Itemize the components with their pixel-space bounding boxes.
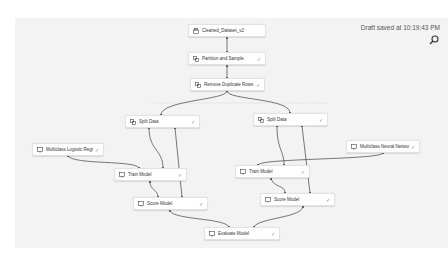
node-remove-duplicate-rows[interactable]: Remove Duplicate Rows ✓: [190, 78, 265, 91]
model-icon: [240, 169, 246, 175]
model-icon: [209, 231, 215, 237]
node-train-model-right[interactable]: Train Model ✓: [235, 165, 310, 178]
node-label: Evaluate Model: [218, 231, 269, 236]
node-label: Split Data: [267, 117, 317, 122]
check-icon: ✓: [199, 201, 203, 207]
check-icon: ✓: [411, 144, 415, 150]
check-icon: ✓: [256, 82, 260, 88]
check-icon: ✓: [319, 117, 323, 123]
node-label: Multiclass Neural Network: [360, 144, 409, 149]
model-icon: [119, 172, 125, 178]
node-partition-and-sample[interactable]: Partition and Sample ✓: [188, 52, 266, 65]
dataset-icon: [193, 28, 199, 34]
node-evaluate-model[interactable]: Evaluate Model ✓: [204, 227, 280, 240]
check-icon: ✓: [271, 231, 275, 237]
check-icon: ✓: [191, 119, 195, 125]
node-label: Partition and Sample: [202, 56, 255, 61]
node-train-model-left[interactable]: Train Model ✓: [114, 168, 187, 181]
module-icon: [195, 82, 201, 88]
node-label: Cleaned_Dataset_v2: [202, 28, 259, 33]
module-icon: [193, 56, 199, 62]
model-icon: [138, 201, 144, 207]
module-icon: [130, 119, 136, 125]
node-label: Remove Duplicate Rows: [204, 82, 254, 87]
node-score-model-right[interactable]: Score Model ✓: [260, 193, 335, 206]
check-icon: ✓: [326, 197, 330, 203]
node-cleaned-dataset[interactable]: Cleaned_Dataset_v2: [188, 24, 266, 37]
check-icon: ✓: [301, 169, 305, 175]
node-label: Score Model: [274, 197, 324, 202]
model-icon: [265, 197, 271, 203]
node-split-data-left[interactable]: Split Data ✓: [125, 115, 200, 128]
check-icon: ✓: [178, 172, 182, 178]
node-multiclass-logistic-regression[interactable]: Multiclass Logistic Regression ✓: [32, 143, 104, 156]
node-label: Multiclass Logistic Regression: [46, 147, 93, 152]
node-label: Train Model: [249, 169, 299, 174]
module-icon: [258, 117, 264, 123]
node-multiclass-neural-network[interactable]: Multiclass Neural Network ✓: [346, 140, 420, 153]
model-icon: [351, 144, 357, 150]
node-label: Score Model: [147, 201, 197, 206]
model-icon: [37, 147, 43, 153]
check-icon: ✓: [95, 147, 99, 153]
node-label: Split Data: [139, 119, 189, 124]
node-split-data-right[interactable]: Split Data ✓: [253, 113, 328, 126]
check-icon: ✓: [257, 56, 261, 62]
node-label: Train Model: [128, 172, 176, 177]
node-score-model-left[interactable]: Score Model ✓: [133, 197, 208, 210]
